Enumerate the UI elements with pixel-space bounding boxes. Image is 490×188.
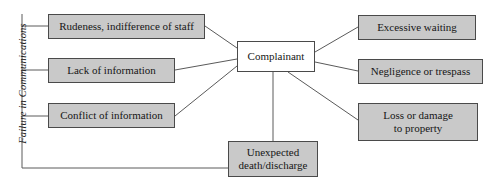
- node-negligence-or-trespass[interactable]: Negligence or trespass: [358, 59, 483, 84]
- node-label: Unexpected death/discharge: [239, 146, 308, 171]
- node-excessive-waiting[interactable]: Excessive waiting: [358, 15, 476, 40]
- connector-line: [315, 27, 358, 52]
- node-label: Negligence or trespass: [371, 65, 471, 78]
- connector-line: [175, 66, 237, 116]
- node-loss-or-damage-to-property[interactable]: Loss or damage to property: [358, 103, 478, 141]
- node-label: Excessive waiting: [377, 21, 457, 34]
- complaint-cause-diagram: Failure in Communications Complainant Ru…: [0, 0, 490, 188]
- connector-line: [288, 72, 358, 120]
- connector-line: [315, 62, 358, 71]
- node-lack-of-information[interactable]: Lack of information: [48, 58, 175, 83]
- connector-line: [205, 26, 237, 48]
- node-unexpected-death-discharge[interactable]: Unexpected death/discharge: [228, 141, 318, 177]
- node-label: Complainant: [248, 50, 305, 63]
- node-rudeness[interactable]: Rudeness, indifference of staff: [48, 14, 205, 39]
- node-label: Conflict of information: [60, 109, 163, 122]
- node-conflict-of-information[interactable]: Conflict of information: [48, 103, 175, 128]
- connector-line: [175, 59, 237, 70]
- node-label: Lack of information: [67, 64, 156, 77]
- node-label: Rudeness, indifference of staff: [59, 20, 194, 33]
- category-label: Failure in Communications: [17, 14, 28, 154]
- node-complainant[interactable]: Complainant: [237, 41, 315, 72]
- node-label: Loss or damage to property: [383, 109, 453, 134]
